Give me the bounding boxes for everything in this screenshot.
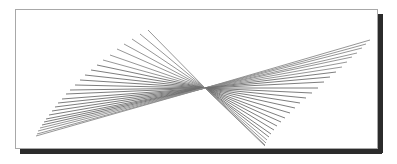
- frame-shadow-right: [378, 14, 383, 153]
- frame-shadow-bottom: [20, 149, 382, 154]
- figure-root: [0, 0, 397, 164]
- bowtie-line-figure: [0, 0, 397, 164]
